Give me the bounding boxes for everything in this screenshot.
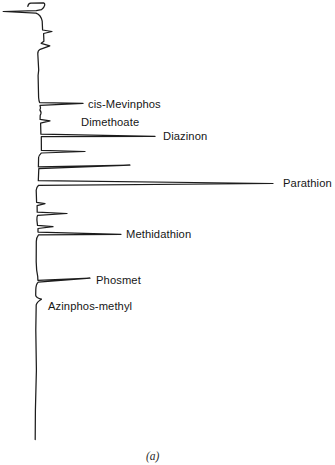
peak-label-dimethoate: Dimethoate <box>81 116 139 128</box>
peak-label-azinphos-methyl: Azinphos-methyl <box>48 300 132 312</box>
chromatogram-figure-panel: cis-Mevinphos Dimethoate Diazinon Parath… <box>0 0 335 465</box>
peak-label-cis-mevinphos: cis-Mevinphos <box>88 98 161 110</box>
chromatogram-trace-line <box>3 3 273 440</box>
peak-label-methidathion: Methidathion <box>126 228 191 240</box>
peak-label-diazinon: Diazinon <box>163 130 207 142</box>
figure-caption: (a) <box>146 450 160 463</box>
chromatogram-plot: cis-Mevinphos Dimethoate Diazinon Parath… <box>0 0 335 465</box>
peak-label-parathion: Parathion <box>283 177 332 189</box>
peak-label-phosmet: Phosmet <box>96 274 142 286</box>
